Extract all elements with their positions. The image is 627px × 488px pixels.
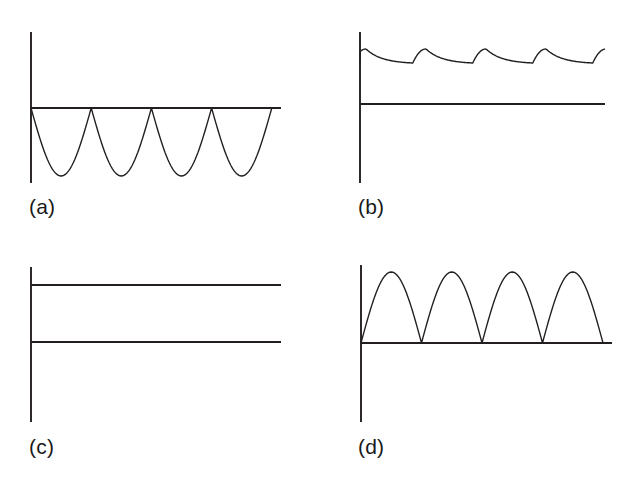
panel-b-group: [360, 32, 605, 183]
panel-label-c: (c): [29, 436, 54, 457]
panel-d-group: [361, 265, 612, 422]
panel-d-waveform: [361, 272, 603, 343]
panel-label-a: (a): [29, 196, 55, 217]
waveform-canvas: [0, 0, 627, 488]
panel-label-b: (b): [358, 196, 384, 217]
panel-a-waveform: [31, 108, 272, 176]
panel-c-group: [31, 267, 281, 422]
panel-a-group: [31, 32, 281, 183]
panel-b-waveform: [360, 49, 605, 63]
waveform-figure: (a) (b) (c) (d): [0, 0, 627, 488]
panel-label-d: (d): [358, 436, 384, 457]
